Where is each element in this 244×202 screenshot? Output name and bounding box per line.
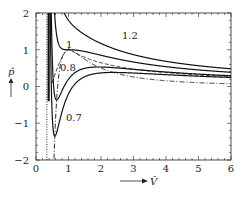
y-axis-title: p̂ [8, 66, 15, 77]
curve-label-0.8: 0.8 [60, 62, 76, 73]
x-tick-label: 5 [195, 163, 201, 174]
curve-label-1.2: 1.2 [122, 30, 138, 41]
x-arrowhead-icon [142, 179, 148, 184]
curve-label-1: 1 [66, 39, 72, 50]
curve-label-0.7: 0.7 [66, 112, 82, 123]
x-tick-label: 3 [130, 163, 136, 174]
x-tick-label: 4 [163, 163, 169, 174]
x-tick-label: 6 [228, 163, 234, 174]
x-axis-label: V̂ [120, 176, 159, 187]
y-arrowhead-icon [9, 78, 14, 83]
y-axis-label: p̂ [8, 66, 15, 97]
y-tick-label: 2 [23, 8, 29, 19]
curve [51, 50, 231, 202]
curve [55, 0, 231, 69]
vdw-isotherm-chart: 2 1 0 −1 −2 0 1 2 3 4 5 6 V̂ p̂ 1.2 1 0.… [0, 0, 244, 202]
curve [52, 0, 231, 72]
x-tick-label: 1 [65, 163, 71, 174]
y-tick-label: 0 [23, 81, 29, 92]
x-axis-title: V̂ [150, 176, 159, 187]
y-tick-label: −1 [14, 118, 29, 129]
x-tick-label: 0 [33, 163, 39, 174]
y-tick-label: −2 [14, 155, 29, 166]
x-tick-label: 2 [98, 163, 104, 174]
plot-curves [47, 0, 231, 202]
y-tick-label: 1 [23, 45, 29, 56]
